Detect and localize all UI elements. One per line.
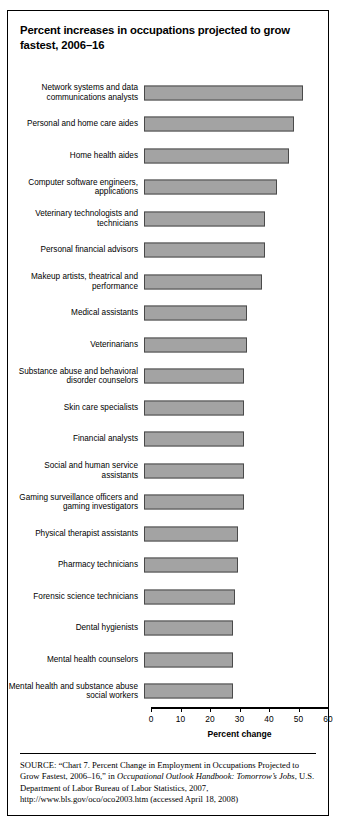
category-label: Mental health counselors <box>8 655 144 665</box>
bar <box>144 495 244 510</box>
category-label: Computer software engineers, application… <box>8 178 144 197</box>
bar <box>144 148 289 163</box>
category-label: Veterinary technologists and technicians <box>8 209 144 228</box>
category-label: Financial analysts <box>8 434 144 444</box>
bar-cell <box>144 109 328 141</box>
figure-frame: Percent increases in occupations project… <box>7 10 329 816</box>
plot-area: Network systems and data communications … <box>8 77 328 747</box>
x-axis-tick-label: 10 <box>176 714 185 724</box>
x-axis-tick-label: 60 <box>323 714 332 724</box>
bar-cell <box>144 487 328 519</box>
bar <box>144 432 244 447</box>
chart-row: Forensic science technicians <box>8 581 328 613</box>
bar <box>144 400 244 415</box>
bar <box>144 652 233 667</box>
bar <box>144 180 277 195</box>
chart-row: Veterinarians <box>8 329 328 361</box>
chart-row: Mental health and substance abuse social… <box>8 676 328 708</box>
x-axis-tick <box>269 707 270 712</box>
category-label: Dental hygienists <box>8 623 144 633</box>
source-divider <box>20 753 316 754</box>
x-axis-title: Percent change <box>151 729 328 739</box>
source-title-italic: Occupational Outlook Handbook: Tomorrow’… <box>117 771 295 781</box>
bar-cell <box>144 613 328 645</box>
category-label: Personal and home care aides <box>8 119 144 129</box>
chart-row: Makeup artists, theatrical and performan… <box>8 266 328 298</box>
chart-row: Social and human service assistants <box>8 455 328 487</box>
bar-cell <box>144 676 328 708</box>
category-label: Forensic science technicians <box>8 592 144 602</box>
category-label: Gaming surveillance officers and gaming … <box>8 493 144 512</box>
bar-cell <box>144 203 328 235</box>
x-axis-tick-label: 20 <box>205 714 214 724</box>
chart-row: Skin care specialists <box>8 392 328 424</box>
chart-title: Percent increases in occupations project… <box>20 23 316 52</box>
chart-row: Mental health counselors <box>8 644 328 676</box>
category-label: Social and human service assistants <box>8 461 144 480</box>
chart-row: Dental hygienists <box>8 613 328 645</box>
bar-cell <box>144 518 328 550</box>
x-axis-tick-label: 0 <box>149 714 154 724</box>
chart-row: Financial analysts <box>8 424 328 456</box>
category-label: Medical assistants <box>8 308 144 318</box>
bar-cell <box>144 266 328 298</box>
category-label: Pharmacy technicians <box>8 560 144 570</box>
chart-row: Home health aides <box>8 140 328 172</box>
bar-cell <box>144 361 328 393</box>
category-label: Physical therapist assistants <box>8 529 144 539</box>
x-axis-tick-label: 50 <box>294 714 303 724</box>
chart-row: Gaming surveillance officers and gaming … <box>8 487 328 519</box>
x-axis-tick-label: 40 <box>264 714 273 724</box>
bar-cell <box>144 77 328 109</box>
bar-cell <box>144 581 328 613</box>
category-label: Personal financial advisors <box>8 245 144 255</box>
bar-rows: Network systems and data communications … <box>8 77 328 707</box>
bar <box>144 211 265 226</box>
bar <box>144 589 235 604</box>
bar <box>144 117 294 132</box>
category-label: Home health aides <box>8 151 144 161</box>
x-axis-tick <box>151 707 152 712</box>
bar <box>144 526 238 541</box>
bar <box>144 369 244 384</box>
chart-row: Network systems and data communications … <box>8 77 328 109</box>
bar <box>144 463 244 478</box>
bar-cell <box>144 329 328 361</box>
chart-row: Substance abuse and behavioral disorder … <box>8 361 328 393</box>
bar-cell <box>144 392 328 424</box>
chart-row: Pharmacy technicians <box>8 550 328 582</box>
chart-row: Physical therapist assistants <box>8 518 328 550</box>
x-axis-tick <box>181 707 182 712</box>
bar <box>144 337 247 352</box>
x-axis-tick <box>210 707 211 712</box>
category-label: Substance abuse and behavioral disorder … <box>8 367 144 386</box>
bar <box>144 621 233 636</box>
chart-row: Computer software engineers, application… <box>8 172 328 204</box>
bar-cell <box>144 298 328 330</box>
bar-cell <box>144 424 328 456</box>
bar-cell <box>144 550 328 582</box>
category-label: Mental health and substance abuse social… <box>8 682 144 701</box>
bar <box>144 558 238 573</box>
chart-row: Personal and home care aides <box>8 109 328 141</box>
source-note: SOURCE: “Chart 7. Percent Change in Empl… <box>20 760 318 806</box>
bar-cell <box>144 455 328 487</box>
bar <box>144 684 233 699</box>
x-axis-tick <box>299 707 300 712</box>
x-axis-tick-label: 30 <box>235 714 244 724</box>
bar-cell <box>144 644 328 676</box>
chart-row: Veterinary technologists and technicians <box>8 203 328 235</box>
bar-cell <box>144 140 328 172</box>
bar-cell <box>144 235 328 267</box>
x-axis-tick <box>328 707 329 712</box>
bar <box>144 85 303 100</box>
x-axis-tick <box>240 707 241 712</box>
bar-cell <box>144 172 328 204</box>
category-label: Skin care specialists <box>8 403 144 413</box>
category-label: Veterinarians <box>8 340 144 350</box>
chart-row: Personal financial advisors <box>8 235 328 267</box>
chart-row: Medical assistants <box>8 298 328 330</box>
source-label: SOURCE: <box>20 760 56 770</box>
bar <box>144 243 265 258</box>
category-label: Makeup artists, theatrical and performan… <box>8 272 144 291</box>
